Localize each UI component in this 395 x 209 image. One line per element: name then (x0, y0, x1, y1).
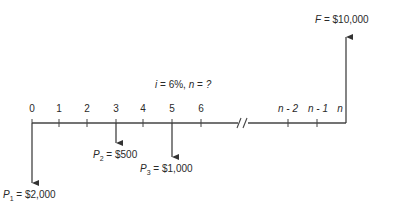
p3-label: P3 = $1,000 (140, 163, 193, 176)
period-label-0: 0 (29, 103, 35, 114)
future-value-label: F = $10,000 (315, 14, 369, 25)
period-label-5: 5 (169, 103, 175, 114)
period-label-3: 3 (113, 103, 119, 114)
period-label-4: 4 (140, 103, 146, 114)
p2-label: P2 = $500 (93, 149, 137, 162)
period-label-n: n (337, 103, 343, 114)
period-label-n-minus-2: n - 2 (278, 103, 298, 114)
axis-break-icon (237, 118, 247, 128)
period-label-n-minus-1: n - 1 (308, 103, 328, 114)
period-label-6: 6 (198, 103, 204, 114)
p1-label: P1 = $2,000 (3, 189, 56, 202)
period-label-2: 2 (84, 103, 90, 114)
interest-rate-label: i = 6%, n = ? (155, 79, 211, 90)
period-label-1: 1 (56, 103, 62, 114)
